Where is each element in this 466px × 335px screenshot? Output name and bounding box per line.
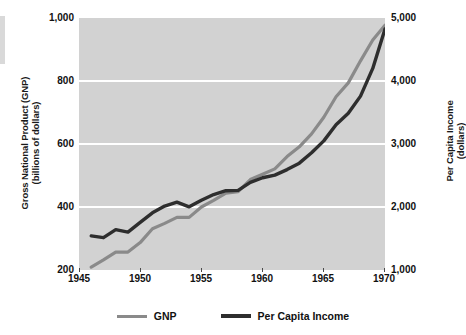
y-axis-left-tick-label: 600 <box>57 138 74 149</box>
gridlines <box>79 81 385 207</box>
y-axis-left-tick-label: 1,000 <box>49 12 74 23</box>
x-axis-tick-mark <box>323 268 324 272</box>
x-axis-tick-label: 1965 <box>298 273 348 284</box>
legend-swatch-per-capita-income <box>221 314 251 318</box>
chart-legend: GNP Per Capita Income <box>0 306 466 326</box>
y-axis-left-tick-label: 400 <box>57 201 74 212</box>
chart-figure: Gross National Product (GNP) (billions o… <box>0 0 466 335</box>
y-axis-right-tick-label: 3,000 <box>391 138 416 149</box>
x-axis-tick-mark <box>384 268 385 272</box>
y-axis-left-title-line2: (billions of dollars) <box>30 68 41 218</box>
x-axis-tick-label: 1970 <box>359 273 409 284</box>
chart-canvas <box>79 18 385 270</box>
y-axis-right-title-line1: Per Capita Income <box>444 100 455 181</box>
series-line-gnp <box>91 25 385 267</box>
legend-label-gnp: GNP <box>154 310 177 322</box>
x-axis-tick-mark <box>79 268 80 272</box>
legend-item-per-capita-income: Per Capita Income <box>221 310 350 322</box>
x-axis-tick-label: 1960 <box>237 273 287 284</box>
x-axis-tick-mark <box>262 268 263 272</box>
x-axis-tick-label: 1955 <box>176 273 226 284</box>
x-axis-tick-mark <box>140 268 141 272</box>
x-axis-tick-mark <box>201 268 202 272</box>
y-axis-left-title: Gross National Product (GNP) (billions o… <box>19 68 41 218</box>
legend-label-per-capita-income: Per Capita Income <box>258 310 350 322</box>
x-axis-tick-label: 1950 <box>115 273 165 284</box>
y-axis-right-tick-label: 2,000 <box>391 201 416 212</box>
y-axis-right-tick-label: 4,000 <box>391 75 416 86</box>
legend-swatch-gnp <box>117 315 147 318</box>
x-axis-tick-label: 1945 <box>54 273 104 284</box>
y-axis-right-tick-label: 5,000 <box>391 12 416 23</box>
y-axis-left-title-line1: Gross National Product (GNP) <box>19 77 30 210</box>
y-axis-right-title: Per Capita Income (dollars) <box>444 66 466 216</box>
scan-edge-artifact <box>0 16 5 64</box>
y-axis-left-tick-label: 800 <box>57 75 74 86</box>
y-axis-right-title-line2: (dollars) <box>455 66 466 216</box>
legend-item-gnp: GNP <box>117 310 177 322</box>
plot-area <box>79 18 385 270</box>
